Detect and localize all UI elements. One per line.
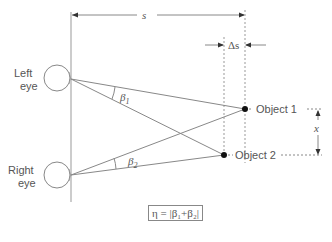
separation-label: x bbox=[314, 122, 319, 134]
object1-dot bbox=[242, 106, 248, 112]
right-eye-label-2: eye bbox=[18, 177, 36, 189]
object2-dot bbox=[221, 152, 227, 158]
right-eye-label: Right bbox=[8, 164, 34, 176]
arrow-right-icon bbox=[239, 13, 245, 18]
right-eye-icon bbox=[44, 162, 70, 188]
delta-distance-label: Δs bbox=[228, 39, 239, 51]
beta2-label: β2 bbox=[128, 155, 137, 172]
object1-label: Object 1 bbox=[256, 103, 297, 115]
left-eye-label: Left bbox=[14, 67, 32, 79]
arrow-left-icon bbox=[72, 13, 78, 18]
object2-label: Object 2 bbox=[235, 149, 276, 161]
beta1-label: β1 bbox=[120, 91, 129, 108]
distance-label: s bbox=[142, 9, 146, 21]
left-eye-icon bbox=[44, 65, 70, 91]
disparity-formula: η = |β₁+β₂| bbox=[148, 205, 203, 221]
left-eye-label-2: eye bbox=[20, 80, 38, 92]
